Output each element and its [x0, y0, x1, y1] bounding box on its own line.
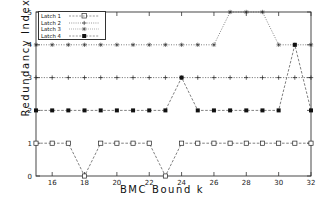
data-point	[163, 108, 167, 112]
data-point	[163, 174, 167, 178]
data-point	[163, 75, 167, 79]
legend-sample-latch-1	[68, 13, 103, 19]
data-point	[147, 43, 151, 47]
data-point	[309, 108, 313, 112]
y-tick-label: 2	[28, 107, 32, 115]
legend-item: Latch 2	[41, 20, 103, 27]
data-point	[212, 108, 216, 112]
legend-sample-latch-2	[68, 20, 103, 26]
data-point	[309, 141, 313, 145]
data-point	[293, 141, 297, 145]
data-point	[244, 108, 248, 112]
data-point	[115, 43, 119, 47]
x-tick-label: 26	[209, 179, 218, 187]
data-point	[34, 75, 38, 79]
data-point	[196, 108, 200, 112]
x-tick-label: 30	[274, 179, 283, 187]
data-point	[179, 43, 183, 47]
data-point	[212, 75, 216, 79]
series-latch-1	[34, 141, 313, 178]
data-point	[50, 108, 54, 112]
y-tick-label: 4	[28, 41, 33, 49]
y-tick-label: 5	[28, 9, 32, 17]
data-point	[82, 43, 86, 47]
data-point	[244, 141, 248, 145]
legend-sample-latch-4	[68, 33, 103, 39]
x-tick-label: 24	[177, 179, 186, 187]
legend-label: Latch 3	[41, 26, 68, 33]
data-point	[260, 108, 264, 112]
data-point	[147, 141, 151, 145]
data-point	[131, 108, 135, 112]
data-point	[131, 141, 135, 145]
data-point	[82, 174, 86, 178]
x-tick-label: 32	[307, 179, 316, 187]
legend-label: Latch 1	[41, 13, 68, 20]
legend: Latch 1 Latch 2 Latch 3 Latch 4	[38, 11, 106, 40]
data-point	[34, 141, 38, 145]
data-point	[179, 141, 183, 145]
data-point	[309, 75, 313, 79]
data-point	[293, 43, 297, 47]
legend-label: Latch 4	[41, 33, 68, 40]
x-tick-label: 16	[48, 179, 57, 187]
data-point	[276, 43, 280, 47]
data-point	[244, 75, 248, 79]
data-point	[50, 141, 54, 145]
data-point	[163, 43, 167, 47]
data-point	[244, 10, 248, 14]
data-point	[131, 75, 135, 79]
data-point	[82, 75, 86, 79]
data-point	[66, 43, 70, 47]
data-point	[115, 141, 119, 145]
data-point	[66, 108, 70, 112]
x-tick-label: 18	[80, 179, 89, 187]
data-point	[212, 141, 216, 145]
legend-item: Latch 4	[41, 33, 103, 40]
data-point	[196, 75, 200, 79]
data-point	[115, 108, 119, 112]
data-point	[34, 108, 38, 112]
data-point	[180, 76, 184, 80]
series-latch-2	[34, 75, 313, 79]
y-tick-label: 1	[28, 140, 32, 148]
data-point	[147, 75, 151, 79]
data-point	[196, 141, 200, 145]
data-point	[50, 43, 54, 47]
legend-sample-latch-3	[68, 26, 103, 32]
data-point	[260, 141, 264, 145]
series-line	[36, 45, 311, 111]
data-point	[293, 75, 297, 79]
data-point	[34, 43, 38, 47]
data-point	[115, 75, 119, 79]
data-point	[99, 141, 103, 145]
x-tick-label: 28	[242, 179, 251, 187]
data-point	[277, 141, 281, 145]
data-point	[228, 141, 232, 145]
series-line	[36, 143, 311, 176]
data-point	[66, 75, 70, 79]
data-point	[99, 75, 103, 79]
data-point	[196, 43, 200, 47]
data-point	[309, 43, 313, 47]
data-point	[83, 108, 87, 112]
data-point	[228, 108, 232, 112]
legend-label: Latch 2	[41, 20, 68, 27]
x-tick-label: 20	[112, 179, 121, 187]
data-point	[66, 141, 70, 145]
data-point	[277, 108, 281, 112]
data-point	[228, 10, 232, 14]
data-point	[260, 10, 264, 14]
data-point	[99, 43, 103, 47]
data-point	[147, 108, 151, 112]
data-point	[131, 43, 135, 47]
x-tick-label: 22	[145, 179, 154, 187]
data-point	[260, 75, 264, 79]
data-point	[228, 75, 232, 79]
legend-item: Latch 1	[41, 13, 103, 20]
legend-item: Latch 3	[41, 26, 103, 33]
y-tick-label: 3	[28, 74, 32, 82]
data-point	[50, 75, 54, 79]
chart-root: Redundancy Index BMC Bound k 01234516182…	[0, 0, 324, 202]
data-point	[276, 75, 280, 79]
